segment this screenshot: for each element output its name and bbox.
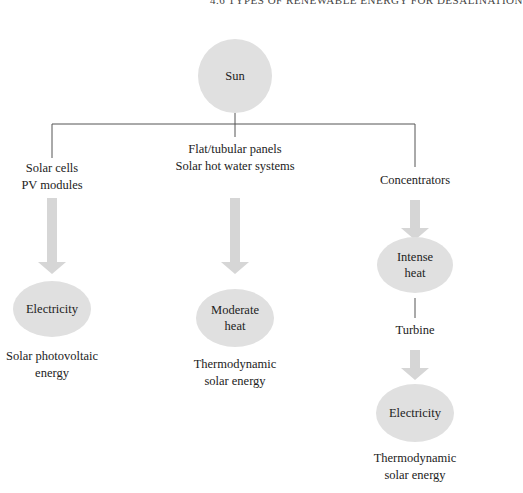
sun-label: Sun (225, 68, 244, 84)
branch-2-caption: Thermodynamic solar energy (194, 356, 277, 390)
branch-2-source: Flat/tubular panels Solar hot water syst… (175, 141, 294, 175)
branch-3-source: Concentrators (380, 172, 450, 189)
branch-1-source: Solar cells PV modules (21, 160, 82, 194)
arrow-down-icon (401, 200, 429, 240)
branch-2-output-label: Moderate heat (211, 302, 259, 334)
branch-1-output-label: Electricity (26, 301, 78, 317)
branch-3-caption: Thermodynamic solar energy (374, 450, 457, 484)
branch-1-caption: Solar photovoltaic energy (6, 348, 98, 382)
arrow-down-icon (38, 198, 66, 274)
turbine-label: Turbine (395, 322, 434, 339)
arrow-down-icon (221, 198, 249, 274)
branch-3-intermediate-label: Intense heat (397, 249, 433, 281)
arrow-down-icon (401, 350, 429, 380)
branch-3-output-label: Electricity (389, 405, 441, 421)
